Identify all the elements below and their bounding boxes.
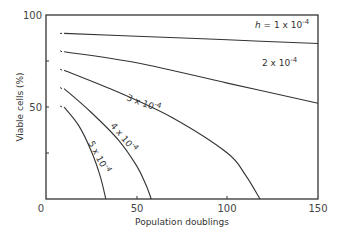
y-tick-50: 50 <box>29 102 42 113</box>
curve-start-mark <box>60 88 62 89</box>
x-tick-150: 150 <box>308 203 327 214</box>
curve-series-1 <box>64 33 318 43</box>
svg-text:5 x 10-4: 5 x 10-4 <box>86 138 113 175</box>
curve-label-3e-4: 3 x 10-4 <box>125 91 163 115</box>
curve-label-4e-4: 4 x 10-4 <box>108 120 140 155</box>
svg-text:h = 1 x 10-4: h = 1 x 10-4 <box>255 18 310 30</box>
svg-text:3 x 10-4: 3 x 10-4 <box>125 91 163 115</box>
y-axis-label: Viable cells (%) <box>15 72 25 141</box>
curve-label-2e-4: 2 x 10-4 <box>262 56 298 68</box>
curve-start-mark <box>60 51 62 52</box>
x-tick-0: 0 <box>38 203 44 214</box>
curve-label-1e-4: h = 1 x 10-4 <box>255 18 310 30</box>
x-tick-50: 50 <box>131 203 144 214</box>
y-tick-100: 100 <box>23 10 42 21</box>
curve-start-mark <box>60 69 62 70</box>
svg-text:4 x 10-4: 4 x 10-4 <box>108 120 140 155</box>
curve-label-5e-4: 5 x 10-4 <box>86 138 113 175</box>
curve-start-mark <box>60 106 62 107</box>
curve-series-3 <box>64 70 260 199</box>
x-axis-label: Population doublings <box>135 217 229 227</box>
svg-text:2 x 10-4: 2 x 10-4 <box>262 56 298 68</box>
ticks <box>46 61 227 199</box>
x-tick-100: 100 <box>217 203 236 214</box>
plot-frame <box>46 15 318 199</box>
chart: 100 50 0 50 100 150 Population doublings… <box>0 0 337 236</box>
